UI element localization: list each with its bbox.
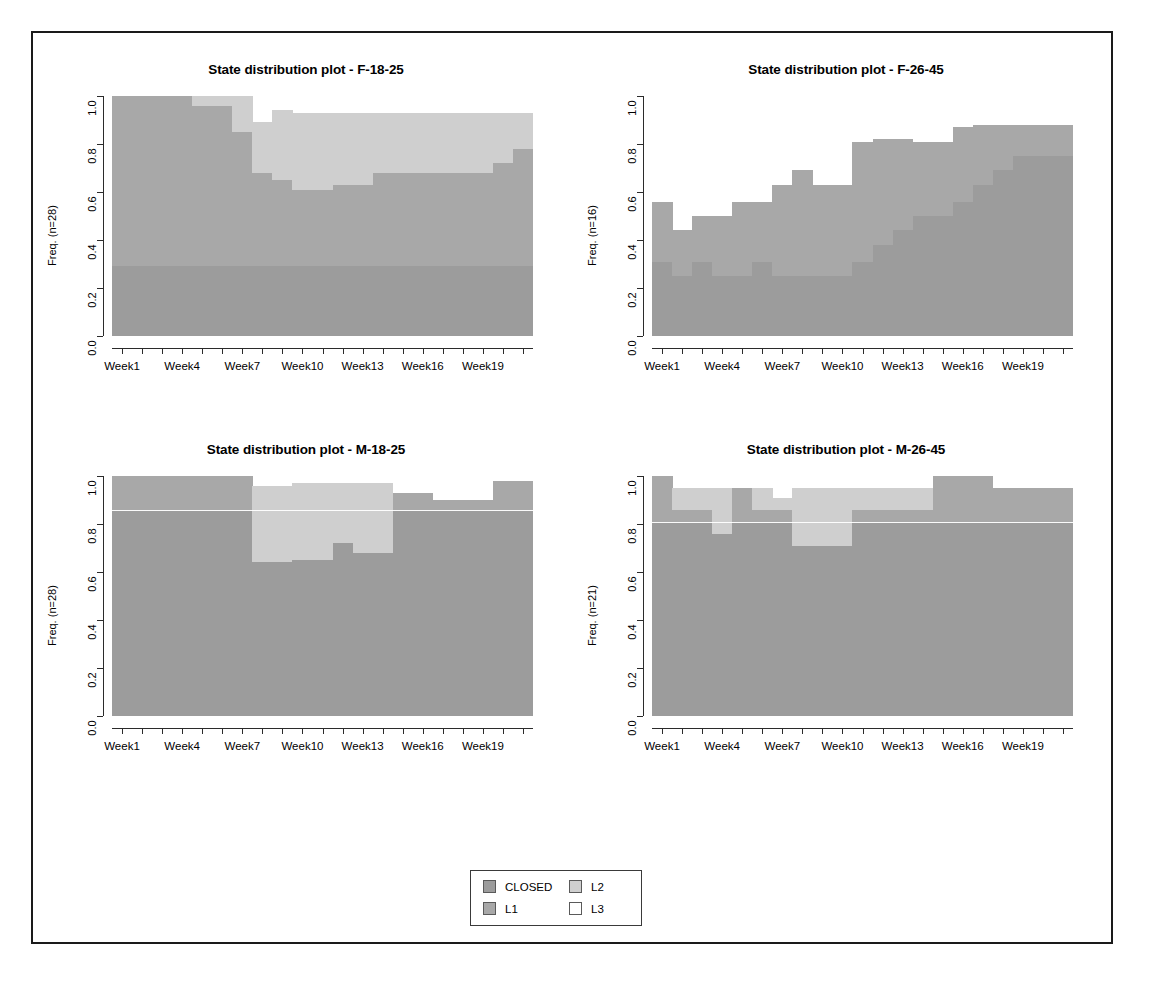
stack-column bbox=[232, 476, 253, 716]
plot-area-f-26-45 bbox=[652, 96, 1073, 336]
x-tick-label: Week16 bbox=[942, 740, 984, 752]
x-tick bbox=[702, 728, 703, 734]
state-segment-closed bbox=[433, 266, 454, 336]
state-segment-l1 bbox=[312, 190, 333, 267]
x-tick bbox=[202, 728, 203, 734]
stack-column bbox=[473, 96, 494, 336]
stack-column bbox=[873, 476, 894, 716]
x-tick-label: Week16 bbox=[942, 360, 984, 372]
stack-column bbox=[353, 476, 374, 716]
state-segment-l1 bbox=[732, 202, 753, 276]
state-segment-l2 bbox=[672, 488, 693, 510]
state-segment-l1 bbox=[772, 185, 793, 276]
y-tick-label: 0.4 bbox=[86, 239, 98, 265]
state-segment-l1 bbox=[1053, 488, 1073, 522]
state-segment-closed bbox=[893, 522, 914, 716]
stack-column bbox=[993, 476, 1014, 716]
state-segment-l2 bbox=[333, 483, 354, 543]
state-segment-l1 bbox=[252, 173, 273, 267]
y-axis-label-m-26-45: Freq. (n=21) bbox=[586, 585, 598, 646]
x-tick bbox=[863, 728, 864, 734]
stack-column bbox=[132, 476, 153, 716]
stack-column bbox=[312, 476, 333, 716]
state-segment-l1 bbox=[893, 510, 914, 522]
state-segment-l1 bbox=[393, 493, 414, 510]
state-segment-closed bbox=[752, 262, 773, 336]
plot-area-m-26-45 bbox=[652, 476, 1073, 716]
x-tick-label: Week13 bbox=[342, 360, 384, 372]
state-segment-closed bbox=[212, 510, 233, 716]
plot-area-m-18-25 bbox=[112, 476, 533, 716]
stack-column bbox=[752, 96, 773, 336]
y-tick-label: 1.0 bbox=[86, 475, 98, 501]
state-segment-l2 bbox=[272, 110, 293, 180]
state-segment-l1 bbox=[373, 173, 394, 267]
state-segment-l2 bbox=[333, 113, 354, 185]
stack-column bbox=[652, 96, 673, 336]
x-tick bbox=[923, 728, 924, 734]
state-segment-l2 bbox=[493, 113, 514, 163]
x-tick bbox=[662, 348, 663, 354]
state-boundary-line bbox=[112, 510, 533, 511]
legend-item-l1[interactable]: L1 bbox=[483, 902, 518, 915]
x-tick bbox=[483, 728, 484, 734]
stack-column bbox=[413, 96, 434, 336]
x-tick bbox=[443, 348, 444, 354]
state-segment-l2 bbox=[893, 488, 914, 510]
state-segment-l1 bbox=[232, 476, 253, 510]
stack-column bbox=[712, 96, 733, 336]
x-tick bbox=[523, 348, 524, 354]
legend-label: L2 bbox=[591, 881, 604, 893]
x-tick bbox=[463, 728, 464, 734]
legend-item-l3[interactable]: L3 bbox=[569, 902, 604, 915]
state-segment-l2 bbox=[913, 488, 934, 510]
state-segment-l2 bbox=[433, 113, 454, 173]
x-tick bbox=[122, 348, 123, 354]
legend-item-closed[interactable]: CLOSED bbox=[483, 880, 552, 893]
x-tick-label: Week7 bbox=[225, 740, 261, 752]
x-tick bbox=[742, 728, 743, 734]
x-tick bbox=[323, 348, 324, 354]
state-segment-closed bbox=[473, 266, 494, 336]
state-segment-l1 bbox=[812, 185, 833, 276]
x-tick bbox=[142, 348, 143, 354]
state-segment-closed bbox=[172, 510, 193, 716]
x-tick bbox=[222, 348, 223, 354]
x-tick bbox=[222, 728, 223, 734]
x-tick bbox=[162, 348, 163, 354]
state-segment-l1 bbox=[712, 216, 733, 276]
state-segment-l1 bbox=[132, 96, 153, 266]
state-segment-closed bbox=[973, 522, 994, 716]
stack-column bbox=[712, 476, 733, 716]
state-boundary-line bbox=[652, 522, 1073, 523]
stack-column bbox=[493, 476, 514, 716]
y-tick-label: 0.6 bbox=[626, 191, 638, 217]
legend-label: L1 bbox=[505, 903, 518, 915]
panel-title-f-18-25: State distribution plot - F-18-25 bbox=[46, 62, 566, 77]
state-segment-closed bbox=[933, 522, 954, 716]
legend-item-l2[interactable]: L2 bbox=[569, 880, 604, 893]
y-tick-label: 0.6 bbox=[626, 571, 638, 597]
x-tick-label: Week19 bbox=[1002, 360, 1044, 372]
state-segment-l2 bbox=[232, 96, 253, 132]
state-segment-l1 bbox=[433, 500, 454, 510]
stack-column bbox=[292, 96, 313, 336]
state-segment-closed bbox=[473, 510, 494, 716]
state-segment-l1 bbox=[152, 96, 173, 266]
state-segment-closed bbox=[252, 266, 273, 336]
x-tick bbox=[682, 728, 683, 734]
stack-column bbox=[192, 96, 213, 336]
x-tick bbox=[262, 348, 263, 354]
state-segment-l2 bbox=[453, 113, 474, 173]
state-segment-l1 bbox=[973, 125, 994, 185]
y-axis-label-f-18-25: Freq. (n=28) bbox=[46, 205, 58, 266]
x-tick bbox=[822, 348, 823, 354]
x-tick bbox=[983, 348, 984, 354]
state-segment-l1 bbox=[1033, 125, 1054, 156]
legend-swatch-l3-icon bbox=[569, 902, 582, 915]
state-segment-closed bbox=[772, 276, 793, 336]
state-segment-l1 bbox=[692, 216, 713, 262]
legend-label: CLOSED bbox=[505, 881, 552, 893]
stack-column bbox=[852, 476, 873, 716]
x-tick bbox=[1063, 348, 1064, 354]
